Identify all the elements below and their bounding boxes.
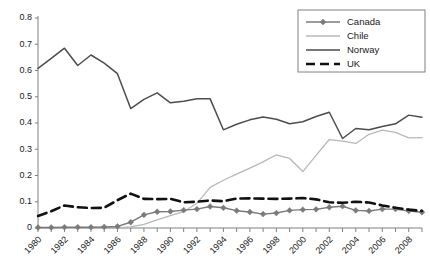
data-point-marker [194, 206, 200, 212]
data-point-marker [207, 204, 213, 210]
data-point-marker [101, 224, 107, 230]
data-point-marker [141, 212, 147, 218]
legend-label-canada: Canada [347, 16, 381, 27]
data-point-marker [75, 224, 81, 230]
chart-legend: CanadaChileNorwayUK [298, 10, 425, 72]
chart-canvas: 00.10.20.30.40.50.60.70.8 19801982198419… [0, 0, 430, 269]
series-line-canada [38, 206, 422, 227]
y-axis: 00.10.20.30.40.50.60.70.8 [19, 12, 38, 232]
y-tick-label: 0.4 [19, 117, 32, 127]
series-group [35, 48, 425, 230]
data-point-marker [287, 208, 293, 214]
x-tick-label: 1990 [155, 234, 176, 255]
x-axis: 1980198219841986198819901992199419961998… [22, 228, 422, 256]
data-point-marker [234, 208, 240, 214]
x-tick-label: 1986 [102, 234, 123, 255]
data-point-marker [353, 208, 359, 214]
y-tick-label: 0.5 [19, 91, 32, 101]
data-point-marker [48, 225, 54, 231]
series-line-chile [38, 130, 422, 228]
data-point-marker [35, 225, 41, 231]
data-point-marker [273, 210, 279, 216]
data-point-marker [260, 211, 266, 217]
x-tick-label: 2000 [287, 234, 308, 255]
x-tick-label: 2002 [313, 234, 334, 255]
series-line-uk [38, 194, 422, 216]
data-point-marker [340, 203, 346, 209]
data-point-marker [168, 209, 174, 215]
x-tick-label: 1994 [208, 234, 229, 255]
data-point-marker [366, 208, 372, 214]
data-point-marker [300, 207, 306, 213]
y-tick-label: 0.1 [19, 196, 32, 206]
data-point-marker [326, 204, 332, 210]
x-tick-label: 2008 [393, 234, 414, 255]
x-tick-label: 1980 [22, 234, 43, 255]
data-point-marker [154, 209, 160, 215]
x-tick-label: 1992 [181, 234, 202, 255]
y-tick-label: 0.6 [19, 65, 32, 75]
x-tick-group: 1980198219841986198819901992199419961998… [22, 228, 422, 256]
y-tick-label: 0.8 [19, 12, 32, 22]
x-tick-label: 2004 [340, 234, 361, 255]
data-point-marker [88, 224, 94, 230]
series-chile [38, 130, 422, 228]
data-point-marker [128, 219, 134, 225]
series-uk [38, 194, 422, 216]
x-tick-label: 1996 [234, 234, 255, 255]
y-tick-label: 0.7 [19, 39, 32, 49]
data-point-marker [62, 224, 68, 230]
y-tick-label: 0.3 [19, 144, 32, 154]
data-point-marker [313, 206, 319, 212]
data-point-marker [247, 209, 253, 215]
legend-label-uk: UK [347, 58, 361, 69]
line-chart: 00.10.20.30.40.50.60.70.8 19801982198419… [0, 0, 430, 269]
x-tick-label: 1982 [49, 234, 70, 255]
y-tick-group: 00.10.20.30.40.50.60.70.8 [19, 12, 38, 232]
legend-label-chile: Chile [347, 30, 369, 41]
x-tick-label: 2006 [366, 234, 387, 255]
legend-label-norway: Norway [347, 44, 379, 55]
y-tick-label: 0 [27, 222, 32, 232]
x-tick-label: 1998 [261, 234, 282, 255]
x-tick-label: 1984 [75, 234, 96, 255]
data-point-marker [220, 205, 226, 211]
y-tick-label: 0.2 [19, 170, 32, 180]
x-tick-label: 1988 [128, 234, 149, 255]
